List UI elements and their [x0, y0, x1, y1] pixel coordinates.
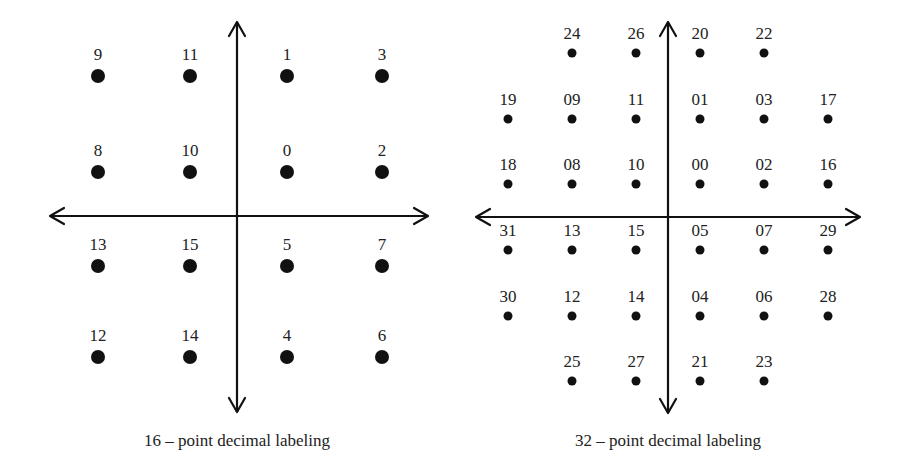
point-label: 8 [94, 141, 103, 160]
point-label: 26 [628, 24, 645, 43]
diagram-caption: 16 – point decimal labeling [144, 431, 331, 450]
point-dot [696, 180, 705, 189]
point-label: 28 [820, 287, 837, 306]
point-dot [632, 312, 641, 321]
point-label: 14 [628, 287, 646, 306]
constellation-point: 1 [280, 45, 294, 83]
point-dot [632, 115, 641, 124]
point-dot [760, 115, 769, 124]
point-label: 18 [500, 155, 517, 174]
point-label: 15 [182, 235, 199, 254]
point-dot [760, 377, 769, 386]
constellation-point: 9 [91, 45, 105, 83]
point-label: 10 [182, 141, 199, 160]
constellation-point: 25 [564, 352, 581, 386]
point-label: 12 [90, 326, 107, 345]
point-label: 2 [378, 141, 387, 160]
point-label: 16 [820, 155, 837, 174]
point-label: 9 [94, 45, 103, 64]
constellation-point: 11 [628, 90, 644, 124]
point-label: 06 [756, 287, 773, 306]
point-dot [183, 350, 197, 364]
diagram-caption: 32 – point decimal labeling [575, 431, 762, 450]
constellation-diagrams: 911138100213155712144616 – point decimal… [0, 0, 903, 469]
point-dot [696, 115, 705, 124]
point-dot [568, 49, 577, 58]
constellation-point: 10 [182, 141, 199, 179]
constellation-point: 24 [564, 24, 582, 58]
point-label: 1 [283, 45, 292, 64]
point-dot [760, 312, 769, 321]
constellation-point: 0 [280, 141, 294, 179]
constellation-point: 16 [820, 155, 837, 189]
constellation-point: 3 [375, 45, 389, 83]
point-label: 4 [283, 326, 292, 345]
point-label: 07 [756, 221, 774, 240]
point-label: 7 [378, 235, 387, 254]
constellation-point: 17 [820, 90, 838, 124]
constellation-point: 05 [692, 221, 709, 255]
point-label: 20 [692, 24, 709, 43]
point-dot [91, 350, 105, 364]
point-dot [632, 246, 641, 255]
constellation-point: 2 [375, 141, 389, 179]
point-label: 08 [564, 155, 581, 174]
point-label: 27 [628, 352, 646, 371]
point-label: 17 [820, 90, 838, 109]
point-label: 09 [564, 90, 581, 109]
point-label: 19 [500, 90, 517, 109]
constellation-point: 21 [692, 352, 709, 386]
constellation-point: 10 [628, 155, 645, 189]
point-label: 10 [628, 155, 645, 174]
point-label: 0 [283, 141, 292, 160]
point-label: 24 [564, 24, 582, 43]
point-dot [375, 165, 389, 179]
constellation-point: 23 [756, 352, 773, 386]
constellation-point: 08 [564, 155, 581, 189]
constellation-point: 20 [692, 24, 709, 58]
point-label: 30 [500, 287, 517, 306]
point-dot [280, 350, 294, 364]
point-dot [632, 49, 641, 58]
point-dot [632, 180, 641, 189]
point-label: 13 [90, 235, 107, 254]
point-dot [375, 350, 389, 364]
constellation-point: 29 [820, 221, 837, 255]
constellation-point: 14 [628, 287, 646, 321]
point-dot [760, 49, 769, 58]
constellation-point: 03 [756, 90, 773, 124]
constellation-point: 4 [280, 326, 294, 364]
point-dot [91, 259, 105, 273]
constellation-point: 15 [628, 221, 645, 255]
point-label: 25 [564, 352, 581, 371]
constellation-point: 11 [182, 45, 198, 83]
point-dot [760, 246, 769, 255]
point-label: 11 [628, 90, 644, 109]
point-dot [760, 180, 769, 189]
point-label: 23 [756, 352, 773, 371]
constellation-point: 07 [756, 221, 774, 255]
point-label: 02 [756, 155, 773, 174]
point-dot [568, 246, 577, 255]
point-label: 13 [564, 221, 581, 240]
constellation-point: 19 [500, 90, 517, 124]
constellation-point: 26 [628, 24, 645, 58]
point-dot [280, 165, 294, 179]
point-dot [632, 377, 641, 386]
point-label: 05 [692, 221, 709, 240]
constellation-point: 18 [500, 155, 517, 189]
constellation-point: 02 [756, 155, 773, 189]
point-dot [91, 69, 105, 83]
point-label: 11 [182, 45, 198, 64]
point-label: 31 [500, 221, 517, 240]
point-dot [824, 246, 833, 255]
constellation-point: 22 [756, 24, 773, 58]
point-dot [183, 259, 197, 273]
point-dot [696, 246, 705, 255]
point-dot [504, 312, 513, 321]
constellation-point: 12 [90, 326, 107, 364]
point-label: 5 [283, 235, 292, 254]
point-label: 12 [564, 287, 581, 306]
constellation-point: 15 [182, 235, 199, 273]
constellation-point: 12 [564, 287, 581, 321]
